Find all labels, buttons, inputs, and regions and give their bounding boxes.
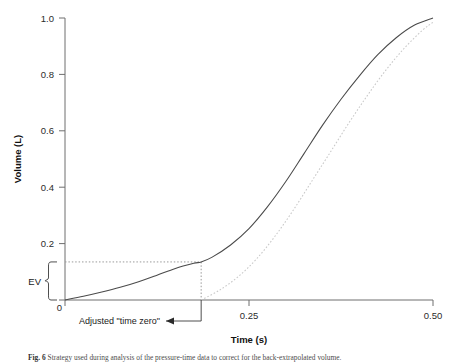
ev-bracket: EV xyxy=(28,262,57,300)
curve-back-extrapolated xyxy=(201,22,433,300)
x-tick-label-0.25: 0.25 xyxy=(240,310,259,321)
y-tick-label-0: 0 xyxy=(57,302,62,313)
y-tick-label-0.6: 0.6 xyxy=(41,125,54,136)
y-axis-title: Volume (L) xyxy=(12,135,23,183)
y-tick-label-0.8: 0.8 xyxy=(41,69,54,80)
ev-label: EV xyxy=(28,276,41,287)
y-axis: 1.0 0.8 0.6 0.4 0.2 0 xyxy=(41,13,65,314)
volume-time-chart: 1.0 0.8 0.6 0.4 0.2 0 0.25 0.50 Volume (… xyxy=(0,0,463,362)
adjusted-time-zero-annotation: Adjusted "time zero" xyxy=(79,300,201,326)
y-tick-label-0.2: 0.2 xyxy=(41,238,54,249)
caption-label: Fig. 6 xyxy=(28,353,46,362)
adjusted-time-zero-label: Adjusted "time zero" xyxy=(79,316,160,326)
y-tick-label-1.0: 1.0 xyxy=(41,13,54,24)
annotation-arrow-icon xyxy=(166,318,174,325)
ev-brace-path xyxy=(45,262,57,300)
x-axis-title: Time (s) xyxy=(231,334,267,345)
annotation-leader-line xyxy=(166,300,201,321)
figure-container: 1.0 0.8 0.6 0.4 0.2 0 0.25 0.50 Volume (… xyxy=(0,0,463,362)
figure-caption: Fig. 6 Strategy used during analysis of … xyxy=(28,353,448,362)
curve-measured-volume-main xyxy=(65,18,433,300)
y-tick-label-0.4: 0.4 xyxy=(41,182,54,193)
x-tick-label-0.50: 0.50 xyxy=(424,310,443,321)
caption-text: Strategy used during analysis of the pre… xyxy=(48,353,342,362)
